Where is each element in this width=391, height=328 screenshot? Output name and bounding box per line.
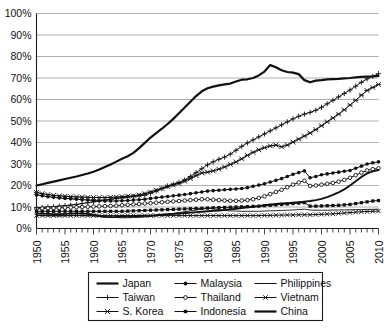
marker-circle-open (263, 194, 267, 198)
marker-circle-open (303, 179, 307, 183)
marker-square-filled (132, 209, 135, 212)
marker-square-filled (149, 209, 152, 212)
marker-square-filled (189, 207, 192, 210)
marker-square-filled (337, 204, 340, 207)
marker-circle-filled (257, 183, 261, 187)
marker-circle-open (251, 197, 255, 201)
marker-square-filled (75, 210, 78, 213)
marker-circle-open (308, 184, 312, 188)
marker-circle-open (171, 200, 175, 204)
marker-circle-filled (103, 199, 107, 203)
marker-circle-filled (154, 196, 158, 200)
y-tick-label: 50% (10, 115, 31, 127)
y-tick-label: 100% (5, 7, 32, 19)
marker-square-filled (103, 210, 106, 213)
marker-circle-open (92, 205, 96, 209)
y-tick-label: 10% (10, 201, 31, 213)
marker-square-filled (320, 204, 323, 207)
marker-square-filled (69, 210, 72, 213)
marker-circle-open (331, 181, 335, 185)
marker-circle-filled (97, 199, 101, 203)
x-tick-label: 1970 (145, 240, 157, 264)
marker-circle-filled (377, 160, 381, 164)
x-tick-label: 1975 (173, 240, 185, 264)
y-tick-label: 20% (10, 179, 31, 191)
marker-square-filled (172, 208, 175, 211)
marker-circle-filled (92, 199, 96, 203)
marker-circle-filled (280, 177, 284, 181)
marker-circle-open (246, 198, 250, 202)
marker-circle-open (183, 199, 187, 203)
x-tick-label: 1950 (31, 240, 43, 264)
x-tick-label: 2010 (373, 240, 385, 264)
marker-square-filled (126, 209, 129, 212)
marker-circle-open (257, 196, 261, 200)
marker-circle-filled (371, 161, 375, 165)
marker-square-filled (183, 207, 186, 210)
marker-square-filled (377, 199, 380, 202)
marker-circle-filled (246, 186, 250, 190)
marker-circle-filled (184, 282, 188, 286)
marker-circle-open (114, 204, 118, 208)
marker-circle-filled (120, 199, 124, 203)
y-tick-label: 40% (10, 136, 31, 148)
legend-label: Taiwan (123, 291, 156, 303)
marker-circle-filled (194, 191, 198, 195)
marker-circle-open (280, 188, 284, 192)
legend-label: Thailand (201, 291, 241, 303)
marker-circle-filled (171, 194, 175, 198)
marker-circle-open (103, 204, 107, 208)
marker-square-filled (308, 205, 311, 208)
marker-circle-filled (75, 197, 79, 201)
marker-square-filled (160, 208, 163, 211)
marker-circle-filled (189, 192, 193, 196)
marker-square-filled (343, 203, 346, 206)
marker-circle-filled (360, 164, 364, 168)
marker-square-filled (348, 203, 351, 206)
marker-circle-filled (109, 199, 113, 203)
legend-label: Philippines (281, 277, 332, 289)
legend-label: Malaysia (201, 277, 243, 289)
y-tick-label: 30% (10, 158, 31, 170)
marker-circle-open (86, 205, 90, 209)
marker-circle-filled (285, 175, 289, 179)
marker-square-filled (143, 209, 146, 212)
marker-circle-filled (303, 169, 307, 173)
marker-circle-open (80, 205, 84, 209)
marker-square-filled (120, 210, 123, 213)
chart-canvas: 0%10%20%30%40%50%60%70%80%90%100% 195019… (0, 0, 391, 328)
marker-circle-filled (80, 198, 84, 202)
marker-circle-open (143, 202, 147, 206)
marker-circle-open (240, 199, 244, 203)
marker-circle-filled (166, 195, 170, 199)
marker-circle-filled (342, 170, 346, 174)
marker-circle-open (160, 200, 164, 204)
marker-square-filled (63, 210, 66, 213)
marker-square-filled (217, 206, 220, 209)
marker-circle-filled (143, 197, 147, 201)
marker-circle-filled (331, 171, 335, 175)
marker-circle-filled (46, 195, 50, 199)
marker-circle-filled (320, 173, 324, 177)
legend-label: S. Korea (123, 305, 164, 317)
marker-circle-open (194, 198, 198, 202)
marker-circle-filled (69, 197, 73, 201)
marker-square-filled (354, 202, 357, 205)
marker-circle-open (228, 199, 232, 203)
marker-square-filled (314, 205, 317, 208)
marker-square-filled (41, 210, 44, 213)
marker-circle-filled (348, 169, 352, 173)
marker-circle-open (206, 197, 210, 201)
marker-circle-filled (160, 195, 164, 199)
y-tick-label: 60% (10, 93, 31, 105)
marker-circle-filled (57, 196, 61, 200)
marker-circle-open (57, 206, 61, 210)
marker-circle-filled (132, 198, 136, 202)
marker-square-filled (52, 210, 55, 213)
marker-circle-filled (354, 166, 358, 170)
marker-circle-open (177, 199, 181, 203)
marker-square-filled (46, 210, 49, 213)
marker-circle-open (189, 198, 193, 202)
x-tick-label: 1955 (59, 240, 71, 264)
marker-circle-filled (206, 189, 210, 193)
